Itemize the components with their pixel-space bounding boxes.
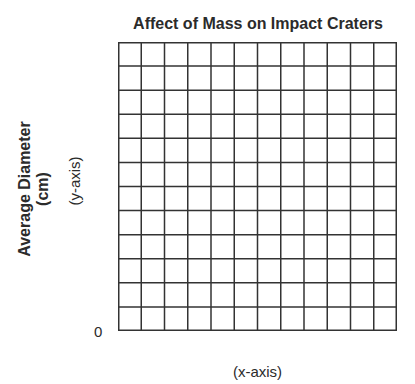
graph-grid [118,42,397,331]
y-axis-hint: (y-axis) [66,151,84,211]
y-axis-label-line2: (cm) [34,121,52,257]
grid-lines [118,42,397,331]
y-axis-label-line1: Average Diameter [16,121,34,257]
origin-label: 0 [94,323,102,340]
x-axis-label: (x-axis) [118,363,397,380]
chart-title: Affect of Mass on Impact Craters [118,15,398,33]
y-axis-label: Average Diameter (cm) [16,121,52,257]
